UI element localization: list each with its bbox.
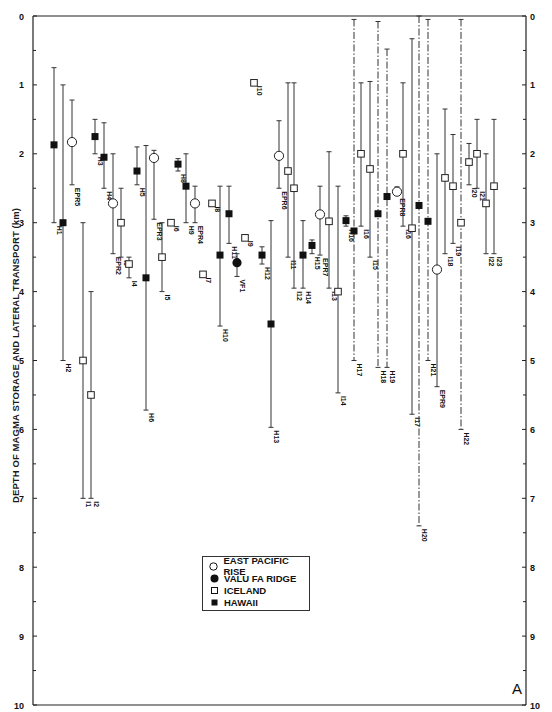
point-label: H20 [421,529,428,542]
filled-square-marker [226,210,233,217]
open-circle-icon [209,562,218,571]
open-square-marker [326,218,333,225]
open-square-marker [159,254,166,261]
y-tick-label-right: 1 [530,80,535,90]
filled-square-marker [51,141,58,148]
open-circle-marker [315,210,324,219]
open-square-marker [400,151,407,158]
open-square-marker [458,219,465,226]
point-label: I4 [131,281,138,287]
point-label: I9 [247,241,254,247]
point-label: I6 [173,226,180,232]
legend-label: ICELAND [224,585,266,596]
y-tick-label-right: 6 [530,425,535,435]
filled-circle-icon [209,574,219,583]
legend-item-hawaii: HAWAII [209,596,309,608]
y-tick-label-right: 3 [530,218,535,228]
y-tick-label-left: 10 [14,701,24,711]
filled-square-marker [143,274,150,281]
filled-square-marker [425,218,432,225]
filled-square-marker [92,133,99,140]
legend-item-epr: EAST PACIFIC RISE [209,560,309,572]
filled-square-marker [351,227,358,234]
open-square-marker [80,357,87,364]
point-label: I16 [363,229,370,239]
legend-item-iceland: ICELAND [209,584,309,596]
filled-circle-marker [232,258,241,267]
point-label: H5 [139,188,146,197]
open-square-marker [450,183,457,190]
point-label: H19 [389,370,396,383]
point-label: I7 [205,277,212,283]
open-circle-marker [432,265,441,274]
legend-label: HAWAII [224,597,258,608]
point-label: H18 [380,370,387,383]
point-label: I5 [164,295,171,301]
point-label: I17 [414,417,421,427]
point-label: H14 [305,291,312,304]
point-label: H22 [463,432,470,445]
filled-square-marker [175,161,182,168]
point-label: H6 [148,413,155,422]
filled-square-icon [209,598,219,607]
point-label: VF1 [239,279,246,292]
filled-square-marker [343,217,350,224]
y-tick-label-left: 8 [19,563,24,573]
point-label: I23 [496,257,503,267]
point-label: EPR2 [115,257,122,275]
point-label: H21 [430,364,437,377]
filled-square-marker [183,183,190,190]
open-square-marker [358,151,365,158]
point-label: I10 [256,86,263,96]
open-square-marker [367,166,374,173]
filled-square-marker [384,193,391,200]
point-label: H2 [65,364,72,373]
y-axis-label: DEPTH OF MAGMA STORAGE AND LATERAL TRANS… [10,181,21,531]
filled-square-marker [259,252,266,259]
y-tick-label-right: 5 [530,356,535,366]
point-label: EPR5 [74,188,81,206]
legend-item-valu-fa: VALU FA RIDGE [209,572,309,584]
filled-square-marker [101,154,108,161]
point-label: I20 [471,188,478,198]
open-circle-marker [67,137,76,146]
open-square-marker [474,151,481,158]
y-tick-label-right: 7 [530,494,535,504]
point-label: I2 [93,501,100,507]
filled-square-marker [416,202,423,209]
open-square-marker [335,288,342,295]
y-tick-label-left: 0 [19,12,24,22]
open-square-marker [409,225,416,232]
open-circle-marker [190,199,199,208]
point-label: H1 [56,226,63,235]
y-tick-label-right: 9 [530,632,535,642]
filled-square-marker [60,219,67,226]
filled-square-marker [300,252,307,259]
point-label: I14 [340,396,347,406]
filled-square-marker [134,168,141,175]
point-label: I22 [488,257,495,267]
point-label: H17 [356,364,363,377]
open-circle-marker [274,151,283,160]
filled-square-marker [268,320,275,327]
point-label: H10 [222,329,229,342]
open-square-marker [483,200,490,207]
open-circle-marker [108,199,117,208]
point-label: I18 [447,257,454,267]
point-label: H9 [188,226,195,235]
point-label: EPR4 [197,226,204,244]
open-circle-marker [149,153,158,162]
point-label: H12 [264,267,271,280]
open-square-marker [491,183,498,190]
y-tick-label-right: 8 [530,563,535,573]
open-square-marker [442,175,449,182]
filled-square-marker [217,252,224,259]
point-label: I1 [85,501,92,507]
y-tick-label-left: 2 [19,149,24,159]
y-tick-label-right: 10 [530,701,540,711]
point-label: H13 [273,430,280,443]
filled-square-marker [375,210,382,217]
filled-square-marker [309,242,316,249]
open-square-marker [285,168,292,175]
point-label: EPR6 [281,191,288,209]
